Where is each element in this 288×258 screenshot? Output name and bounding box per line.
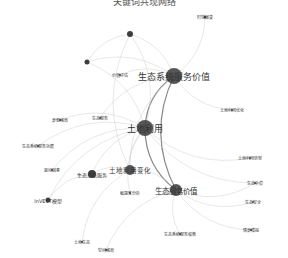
node-label: 生态系统服务价值 <box>138 70 210 83</box>
node-label: 生态服务价值 <box>155 185 197 196</box>
node-label: 生态系统服务 <box>77 171 107 178</box>
node-label: 生态补偿 <box>247 180 263 186</box>
node-label: 景观格局 <box>52 117 68 123</box>
node-label: 土地生态 <box>74 239 90 245</box>
network-edge <box>82 170 130 242</box>
node-label: 土地利用变化 <box>109 165 151 175</box>
node-label: InVEST模型 <box>34 197 61 204</box>
node-label: 空间格局 <box>98 247 114 253</box>
node-label: 生态系统服务权衡 <box>164 231 196 237</box>
node-label: 土地利用转型 <box>238 155 262 161</box>
network-edge <box>176 190 251 230</box>
node-label: 价值评估 <box>112 72 128 78</box>
network-edge <box>174 17 205 76</box>
node-label: 情景模拟 <box>243 227 259 233</box>
node-label: 土地利用优化 <box>220 107 244 113</box>
node-label: 生态系统服务功能 <box>22 143 54 149</box>
network-edge <box>113 34 130 170</box>
node-label: 驱动因素 <box>44 167 60 173</box>
node-label: 生态安全 <box>245 199 261 205</box>
network-edge <box>161 76 176 190</box>
network-node <box>127 31 133 37</box>
network-edge <box>172 190 180 234</box>
node-label: 时空演变 <box>197 14 213 20</box>
node-label: 土地利用 <box>127 122 163 135</box>
network-node <box>85 60 90 65</box>
network-edge <box>106 190 176 250</box>
node-label: 敏感性分析 <box>120 190 140 196</box>
node-label: 生态服务 <box>92 115 108 121</box>
